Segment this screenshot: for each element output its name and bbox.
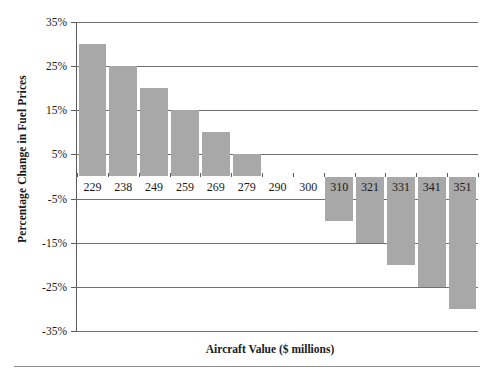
x-axis-category-label: 341 [416, 177, 447, 198]
x-axis-tick [77, 173, 78, 177]
bottom-divider [14, 366, 480, 367]
y-axis-tick-label: -5% [21, 193, 67, 205]
x-axis-tick [416, 173, 417, 177]
y-axis-tick [71, 243, 76, 244]
y-axis-tick-label: 35% [21, 16, 67, 28]
y-axis-tick [71, 287, 76, 288]
x-axis-tick [447, 173, 448, 177]
y-axis-tick-label: -25% [21, 281, 67, 293]
y-axis-tick-label: -15% [21, 237, 67, 249]
x-axis-tick [108, 173, 109, 177]
x-axis-tick [262, 173, 263, 177]
y-axis-tick [71, 199, 76, 200]
x-axis-title: Aircraft Value ($ millions) [60, 343, 480, 355]
x-axis-category-label: 300 [293, 177, 324, 198]
bar [233, 154, 261, 176]
bar [109, 66, 137, 176]
y-axis-tick-label: 15% [21, 104, 67, 116]
y-axis-tick [71, 66, 76, 67]
x-axis-category-label: 259 [170, 177, 201, 198]
x-axis-category-label: 269 [200, 177, 231, 198]
x-axis-category-label: 331 [385, 177, 416, 198]
x-axis-tick [293, 173, 294, 177]
x-axis-category-label: 321 [355, 177, 386, 198]
y-axis-tick-label: -35% [21, 325, 67, 337]
x-axis-tick [170, 173, 171, 177]
bar [79, 44, 107, 176]
gridline--35% [76, 331, 478, 332]
x-axis-category-label: 229 [77, 177, 108, 198]
x-axis-tick [139, 173, 140, 177]
y-axis-tick-label: 25% [21, 60, 67, 72]
y-axis-tick [71, 331, 76, 332]
x-axis-tick [355, 173, 356, 177]
x-axis-tick [478, 173, 479, 177]
x-axis-tick [385, 173, 386, 177]
x-axis-category-label: 310 [324, 177, 355, 198]
x-axis-category-labels: 229238249259269279290300310321331341351 [77, 177, 478, 198]
figure-bar-chart: Percentage Change in Fuel Prices 35%25%1… [0, 0, 492, 371]
y-axis-tick [71, 154, 76, 155]
x-axis-category-label: 290 [262, 177, 293, 198]
x-axis-tick [231, 173, 232, 177]
x-axis-tick [200, 173, 201, 177]
x-axis-category-label: 249 [139, 177, 170, 198]
y-axis-tick [71, 22, 76, 23]
x-axis-tick [324, 173, 325, 177]
bar [171, 110, 199, 176]
bar [202, 132, 230, 176]
x-axis-category-label: 351 [447, 177, 478, 198]
y-axis-tick [71, 110, 76, 111]
x-axis-category-label: 238 [108, 177, 139, 198]
x-axis-category-label: 279 [231, 177, 262, 198]
bar [140, 88, 168, 176]
plot-area: 35%25%15%5%-5%-15%-25%-35% 2292382492592… [76, 22, 478, 331]
y-axis-tick-label: 5% [21, 148, 67, 160]
